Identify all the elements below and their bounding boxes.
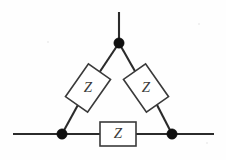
left-impedance: Z xyxy=(65,64,110,112)
top-node xyxy=(114,38,124,48)
right-impedance-label: Z xyxy=(142,79,151,95)
bottom-impedance-label: Z xyxy=(114,125,123,141)
delta-impedance-diagram: Z Z Z xyxy=(0,0,226,160)
circuit-schematic-svg: Z Z Z xyxy=(0,0,226,160)
bottom-impedance: Z xyxy=(100,122,136,146)
bottom-right-node xyxy=(167,129,177,139)
left-impedance-label: Z xyxy=(84,79,93,95)
right-impedance: Z xyxy=(123,64,168,112)
bottom-left-node xyxy=(57,129,67,139)
